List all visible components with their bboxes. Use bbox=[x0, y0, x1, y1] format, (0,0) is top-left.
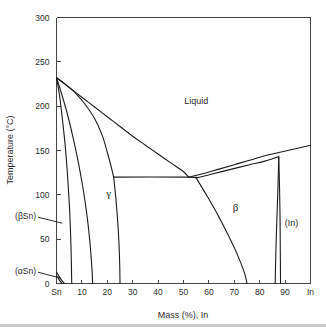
annotation-label-alpha-tin: (αSn) bbox=[15, 266, 36, 276]
y-axis-title: Temperature (°C) bbox=[5, 115, 15, 184]
phase-label-liquid: Liquid bbox=[184, 96, 208, 106]
y-tick-label: 300 bbox=[35, 13, 49, 23]
phase-label-gamma: γ bbox=[105, 187, 111, 199]
x-tick-label: 60 bbox=[204, 287, 214, 297]
x-tick-label: 80 bbox=[255, 287, 265, 297]
phase-label-indium: (In) bbox=[285, 218, 299, 228]
y-tick-label: 0 bbox=[45, 279, 50, 289]
x-tick-label: 90 bbox=[280, 287, 290, 297]
phase-diagram-svg: Sn102030405060708090In 05010015020025030… bbox=[0, 0, 326, 327]
x-tick-label: 40 bbox=[153, 287, 163, 297]
annotation-label-beta-tin: (βSn) bbox=[15, 211, 36, 221]
x-axis-title: Mass (%), In bbox=[158, 310, 209, 320]
x-tick-label: 10 bbox=[77, 287, 87, 297]
x-tick-label: Sn bbox=[51, 287, 62, 297]
x-tick-label: In bbox=[307, 287, 314, 297]
y-tick-label: 250 bbox=[35, 57, 49, 67]
y-tick-label: 200 bbox=[35, 101, 49, 111]
y-tick-label: 50 bbox=[40, 234, 50, 244]
phase-label-beta: β bbox=[233, 201, 239, 213]
y-tick-label: 100 bbox=[35, 190, 49, 200]
y-tick-label: 150 bbox=[35, 146, 49, 156]
x-tick-label: 70 bbox=[230, 287, 240, 297]
x-tick-label: 20 bbox=[103, 287, 113, 297]
x-tick-label: 50 bbox=[179, 287, 189, 297]
x-tick-label: 30 bbox=[128, 287, 138, 297]
phase-diagram-figure: Sn102030405060708090In 05010015020025030… bbox=[0, 0, 326, 327]
